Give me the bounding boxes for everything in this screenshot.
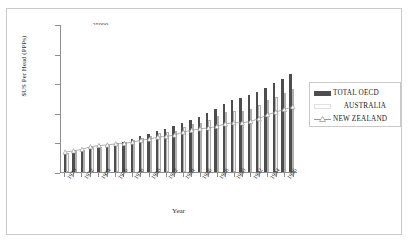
bar-australia (258, 105, 260, 172)
bar-group (121, 25, 129, 172)
bar-australia (200, 123, 202, 172)
legend-label-australia: AUSTRALIA (333, 102, 397, 111)
bar-australia (158, 133, 160, 172)
bar-group (95, 25, 103, 172)
x-axis-tick-mark (98, 173, 99, 177)
x-axis-title: Year (60, 207, 297, 215)
bar-australia (166, 132, 168, 172)
bar-australia (116, 143, 118, 172)
x-axis-tick-mark (115, 173, 116, 177)
bar-australia (100, 147, 102, 172)
bar-group (221, 25, 229, 172)
bar-group (187, 25, 195, 172)
bar-groups (61, 25, 297, 172)
bar-australia (242, 111, 244, 172)
bar-australia (183, 127, 185, 172)
bar-australia (225, 112, 227, 172)
bar-australia (292, 89, 294, 172)
legend-swatch-line-triangle-icon (313, 113, 333, 126)
legend-swatch-dark-bar-icon (313, 87, 333, 100)
legend-label-new-zealand: NEW ZEALAND (333, 115, 387, 124)
y-axis-title: $US Per Head (PPPs) (20, 6, 28, 126)
bar-group (154, 25, 162, 172)
legend-label-total-oecd: TOTAL OECD (333, 89, 379, 98)
bar-group (204, 25, 212, 172)
bar-australia (83, 150, 85, 172)
legend-item-new-zealand: NEW ZEALAND (313, 113, 397, 126)
chart-figure: $US Per Head (PPPs) 05000100001500020000… (0, 0, 411, 244)
x-axis-tick-labels: 1970197219741976197819801982198419861988… (60, 177, 297, 205)
legend-item-total-oecd: TOTAL OECD (313, 87, 397, 100)
bar-australia (217, 116, 219, 172)
bar-group (162, 25, 170, 172)
bar-australia (150, 136, 152, 172)
bar-australia (175, 131, 177, 172)
bar-group (246, 25, 254, 172)
bar-group (179, 25, 187, 172)
bar-group (171, 25, 179, 172)
bar-group (212, 25, 220, 172)
bar-group (70, 25, 78, 172)
bar-australia (267, 100, 269, 172)
bar-australia (192, 124, 194, 172)
bar-australia (275, 97, 277, 172)
bar-group (279, 25, 287, 172)
legend-item-australia: AUSTRALIA (313, 100, 397, 113)
bar-group (196, 25, 204, 172)
bar-group (238, 25, 246, 172)
bar-australia (208, 120, 210, 172)
bar-group (129, 25, 137, 172)
bar-group (87, 25, 95, 172)
x-axis-tick-mark (81, 173, 82, 177)
bar-australia (133, 140, 135, 172)
bar-group (229, 25, 237, 172)
bar-group (104, 25, 112, 172)
bar-group (288, 25, 296, 172)
bar-group (271, 25, 279, 172)
bar-group (263, 25, 271, 172)
bar-australia (141, 138, 143, 172)
plot-area (60, 25, 297, 173)
bar-group (137, 25, 145, 172)
chart-legend: TOTAL OECD AUSTRALIA NEW ZEALAND (309, 82, 401, 127)
bar-group (146, 25, 154, 172)
bar-group (254, 25, 262, 172)
bar-australia (233, 111, 235, 172)
bar-group (79, 25, 87, 172)
bar-australia (284, 93, 286, 172)
bar-australia (66, 153, 68, 172)
bar-group (112, 25, 120, 172)
bar-australia (250, 109, 252, 172)
legend-swatch-light-bar-icon (313, 100, 333, 113)
bar-group (62, 25, 70, 172)
